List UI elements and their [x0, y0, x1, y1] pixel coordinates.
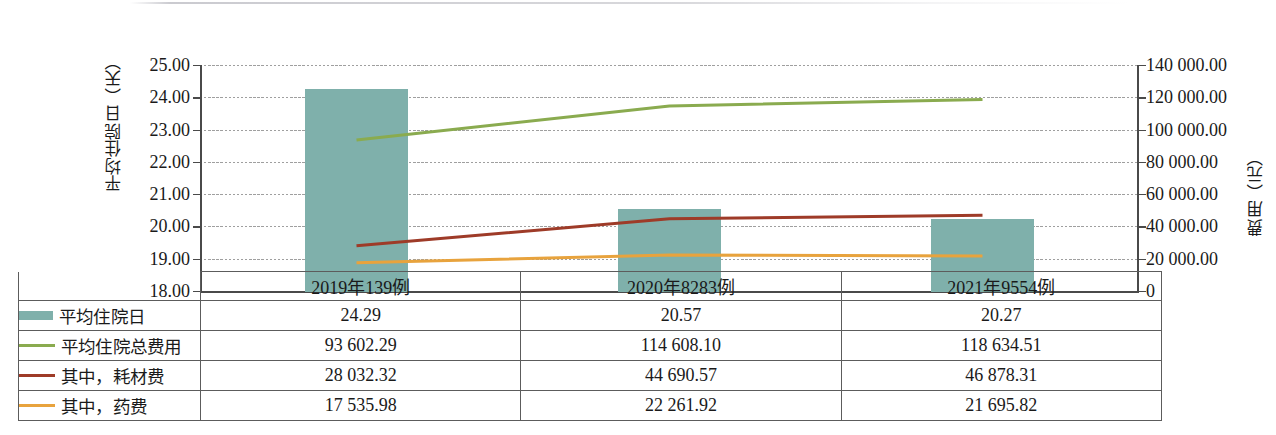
value-cell: 118 634.51 — [841, 331, 1161, 361]
right-tick-label: 80 000.00 — [1146, 153, 1218, 171]
legend-cell: 平均住院日 — [19, 301, 201, 331]
plot-area — [200, 65, 1139, 292]
left-axis-tick-mark — [193, 130, 200, 131]
left-axis-tick-mark — [193, 194, 200, 195]
right-axis-title: 费用（元） — [1249, 148, 1266, 236]
left-axis-tick-mark — [193, 162, 200, 163]
right-axis-tick-mark — [1139, 97, 1146, 98]
right-axis-tick-mark — [1139, 226, 1146, 227]
table-header-row: 2019年139例2020年8283例2021年9554例 — [19, 272, 1162, 301]
line-series-path — [357, 99, 983, 139]
right-axis-tick-mark — [1139, 194, 1146, 195]
legend-label: 其中，药费 — [61, 393, 147, 418]
legend-bar-swatch-icon — [19, 311, 53, 320]
line-series — [200, 65, 1139, 292]
right-tick-label: 120 000.00 — [1146, 88, 1227, 106]
value-cell: 24.29 — [201, 301, 521, 331]
table-row: 平均住院总费用93 602.29114 608.10118 634.51 — [19, 331, 1162, 361]
legend-label: 平均住院总费用 — [61, 333, 181, 358]
legend-label: 其中，耗材费 — [61, 363, 164, 388]
legend-cell: 平均住院总费用 — [19, 331, 201, 361]
value-cell: 22 261.92 — [521, 391, 841, 421]
legend-line-swatch-icon — [19, 374, 55, 377]
table-row: 其中，耗材费28 032.3244 690.5746 878.31 — [19, 361, 1162, 391]
right-tick-label: 140 000.00 — [1146, 56, 1227, 74]
right-axis-tick-mark — [1139, 130, 1146, 131]
left-tick-label: 22.00 — [150, 153, 191, 171]
legend-cell: 其中，药费 — [19, 391, 201, 421]
value-cell: 93 602.29 — [201, 331, 521, 361]
value-cell: 21 695.82 — [841, 391, 1161, 421]
category-header-cell: 2019年139例 — [201, 272, 521, 301]
right-axis-tick-mark — [1139, 162, 1146, 163]
left-tick-label: 24.00 — [150, 88, 191, 106]
table-corner-cell — [19, 272, 201, 301]
left-tick-label: 21.00 — [150, 185, 191, 203]
right-axis-tick-mark — [1139, 259, 1146, 260]
scan-artifact — [130, 2, 1130, 4]
left-axis-tick-mark — [193, 65, 200, 66]
left-tick-label: 25.00 — [150, 56, 191, 74]
table-row: 其中，药费17 535.9822 261.9221 695.82 — [19, 391, 1162, 421]
value-cell: 46 878.31 — [841, 361, 1161, 391]
left-axis-tick-mark — [193, 226, 200, 227]
left-tick-label: 19.00 — [150, 250, 191, 268]
value-cell: 114 608.10 — [521, 331, 841, 361]
category-header-cell: 2020年8283例 — [521, 272, 841, 301]
left-axis-title: 平均住院日（天） — [107, 52, 124, 192]
legend-label: 平均住院日 — [59, 303, 145, 328]
right-tick-label: 100 000.00 — [1146, 121, 1227, 139]
data-table: 2019年139例2020年8283例2021年9554例平均住院日24.292… — [18, 271, 1162, 421]
legend-line-swatch-icon — [19, 344, 55, 347]
chart-figure: 平均住院日（天） 费用（元） 25.0024.0023.0022.0021.00… — [0, 0, 1276, 435]
right-tick-label: 20 000.00 — [1146, 250, 1218, 268]
left-tick-label: 20.00 — [150, 217, 191, 235]
line-series-path — [357, 215, 983, 245]
value-cell: 17 535.98 — [201, 391, 521, 421]
value-cell: 20.27 — [841, 301, 1161, 331]
value-cell: 44 690.57 — [521, 361, 841, 391]
right-tick-label: 40 000.00 — [1146, 217, 1218, 235]
value-cell: 28 032.32 — [201, 361, 521, 391]
table-row: 平均住院日24.2920.5720.27 — [19, 301, 1162, 331]
right-tick-label: 60 000.00 — [1146, 185, 1218, 203]
legend-cell: 其中，耗材费 — [19, 361, 201, 391]
chart-plot-region: 平均住院日（天） 费用（元） 25.0024.0023.0022.0021.00… — [0, 20, 1276, 282]
legend-line-swatch-icon — [19, 404, 55, 407]
left-tick-label: 23.00 — [150, 121, 191, 139]
right-axis-tick-mark — [1139, 65, 1146, 66]
left-axis-tick-mark — [193, 97, 200, 98]
line-series-path — [357, 255, 983, 263]
value-cell: 20.57 — [521, 301, 841, 331]
left-axis-tick-mark — [193, 259, 200, 260]
category-header-cell: 2021年9554例 — [841, 272, 1161, 301]
